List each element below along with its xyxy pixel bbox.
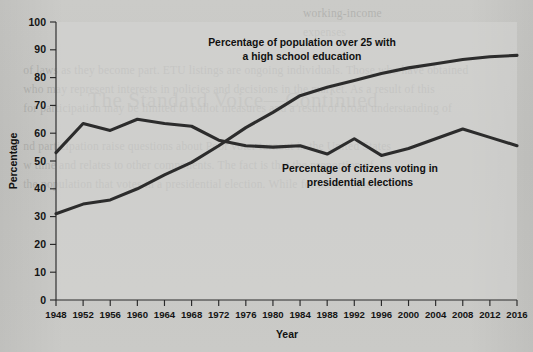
- x-tick-label: 2000: [398, 309, 419, 320]
- y-tick-label: 90: [34, 43, 46, 55]
- turnout-annotation-line1: Percentage of citizens voting in: [282, 163, 438, 174]
- x-tick-label: 2012: [479, 309, 500, 320]
- y-axis-title: Percentage: [7, 133, 19, 190]
- y-tick-label: 10: [34, 266, 46, 278]
- y-tick-label: 0: [40, 294, 46, 306]
- x-tick-label: 2004: [425, 309, 447, 320]
- x-tick-label: 1964: [154, 309, 176, 320]
- x-tick-label: 1960: [127, 309, 148, 320]
- y-tick-label: 40: [34, 182, 46, 194]
- y-tick-label: 30: [34, 210, 46, 222]
- y-tick-label: 70: [34, 99, 46, 111]
- x-tick-label: 1952: [72, 309, 93, 320]
- chart-svg: 0102030405060708090100 19481952195619601…: [0, 0, 533, 352]
- x-tick-label: 1948: [45, 309, 67, 320]
- y-axis: 0102030405060708090100: [28, 16, 56, 306]
- x-tick-label: 1996: [371, 309, 392, 320]
- y-tick-label: 20: [34, 238, 46, 250]
- x-tick-label: 1992: [344, 309, 365, 320]
- education-annotation-line2: a high school education: [243, 51, 362, 62]
- data-series-group: [56, 55, 517, 213]
- x-tick-label: 1968: [181, 309, 203, 320]
- x-tick-label: 2016: [506, 309, 527, 320]
- x-tick-label: 1988: [317, 309, 339, 320]
- y-tick-label: 100: [28, 16, 46, 28]
- series-line-voter-turnout: [56, 119, 517, 155]
- turnout-annotation-line2: presidential elections: [307, 177, 413, 188]
- y-tick-label: 80: [34, 71, 46, 83]
- x-axis-title: Year: [276, 328, 298, 340]
- x-tick-label: 2008: [452, 309, 474, 320]
- education-annotation: Percentage of population over 25 with a …: [208, 37, 396, 62]
- x-axis: 1948195219561960196419681972197619801984…: [45, 300, 527, 320]
- education-annotation-line1: Percentage of population over 25 with: [208, 37, 396, 48]
- line-chart-figure: 0102030405060708090100 19481952195619601…: [0, 0, 533, 352]
- x-tick-label: 1980: [262, 309, 283, 320]
- x-tick-label: 1956: [100, 309, 121, 320]
- x-tick-label: 1972: [208, 309, 229, 320]
- y-tick-label: 50: [34, 155, 46, 167]
- turnout-annotation: Percentage of citizens voting in preside…: [282, 163, 438, 188]
- y-tick-label: 60: [34, 127, 46, 139]
- x-tick-label: 1976: [235, 309, 256, 320]
- x-tick-label: 1984: [289, 309, 311, 320]
